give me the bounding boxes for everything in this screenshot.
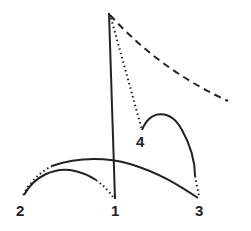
label-point-1: 1 bbox=[111, 202, 119, 219]
big-arc-2-to-3 bbox=[52, 159, 198, 198]
arc-4-to-3 bbox=[142, 114, 195, 176]
label-point-4: 4 bbox=[136, 133, 145, 150]
diagram-canvas: 1 2 3 4 bbox=[0, 0, 251, 231]
small-arc-dotted-end bbox=[96, 180, 114, 199]
dotted-line-apex-to-4 bbox=[111, 18, 142, 130]
label-point-2: 2 bbox=[16, 202, 24, 219]
small-arc-2-to-1 bbox=[24, 170, 96, 195]
label-point-3: 3 bbox=[195, 202, 203, 219]
dashed-curve bbox=[110, 15, 228, 101]
dotted-arc-end-3 bbox=[195, 176, 199, 196]
vertical-line bbox=[109, 13, 115, 199]
